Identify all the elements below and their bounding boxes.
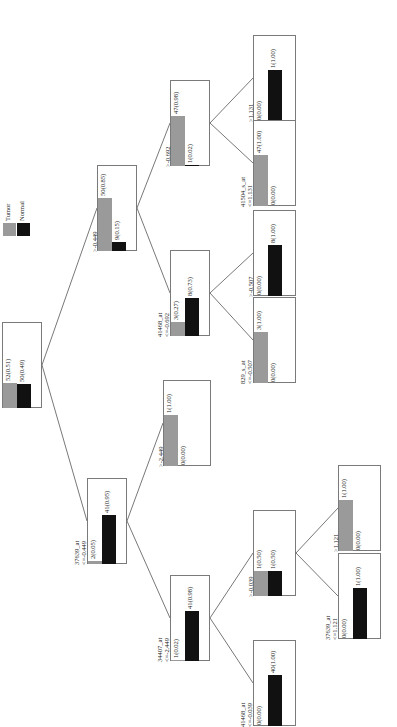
tree-node: 37639_at <=1.121 0(0.00) 1(1.00)	[338, 553, 381, 639]
split-variable: 37639_at	[73, 541, 80, 565]
tumor-count: 0(0.00)	[255, 101, 262, 120]
normal-count: 0(0.00)	[269, 363, 276, 382]
normal-count: 0(0.00)	[354, 531, 361, 550]
tumor-bar	[254, 571, 268, 596]
legend-label-normal: Normal	[18, 201, 25, 221]
split-condition: <=1.121	[331, 618, 338, 640]
tumor-bar	[88, 561, 102, 564]
split-variable: 829_s_at	[239, 361, 246, 384]
tumor-count: 47(0.98)	[172, 92, 179, 114]
split-condition: <=-0.692	[163, 313, 170, 337]
tumor-bar	[3, 383, 17, 408]
tumor-count: 52(0.51)	[4, 359, 11, 381]
split-variable: 34407_at	[156, 638, 163, 662]
split-condition: <=-0.507	[246, 360, 253, 384]
normal-bar	[268, 571, 282, 596]
tree-node: >-0.692 47(0.98) 1(0.02)	[170, 80, 210, 166]
normal-count: 8(0.73)	[186, 277, 193, 296]
tree-node: 41468_at <=-0.692 3(0.27) 8(0.73)	[170, 250, 210, 336]
tumor-count: 1(0.02)	[172, 639, 179, 658]
normal-count: 41(0.95)	[103, 491, 110, 513]
normal-bar	[268, 70, 282, 121]
split-condition: >-2.449	[157, 447, 164, 467]
split-variable: 41468_at	[239, 703, 246, 727]
tumor-bar	[339, 500, 353, 551]
normal-bar	[268, 245, 282, 296]
tumor-bar	[171, 660, 185, 661]
tumor-bar	[98, 198, 112, 251]
legend-swatch-tumor	[3, 223, 16, 236]
tumor-bar	[171, 322, 185, 336]
normal-count: 1(1.00)	[354, 567, 361, 586]
normal-count: 50(0.49)	[18, 360, 25, 382]
tree-node: >-2.449 1(1.00) 0(0.00)	[163, 380, 211, 466]
normal-bar	[102, 515, 116, 564]
tumor-count: 0(0.00)	[340, 619, 347, 638]
tumor-count: 1(0.50)	[255, 550, 262, 569]
normal-bar	[185, 298, 199, 336]
normal-bar	[268, 675, 282, 726]
normal-bar	[185, 165, 199, 166]
tree-node: >-0.507 0(0.00) 8(1.00)	[253, 210, 296, 296]
normal-count: 1(0.02)	[186, 144, 193, 163]
split-variable: 37639_at	[324, 616, 331, 640]
normal-count: 9(0.15)	[113, 221, 120, 240]
tumor-count: 3(1.00)	[255, 311, 262, 330]
normal-count: 41(0.98)	[186, 587, 193, 609]
tree-node: 37639_at <=-0.449 2(0.05) 41(0.95)	[87, 478, 127, 564]
split-condition: >-0.039	[247, 577, 254, 597]
normal-bar	[112, 242, 126, 251]
normal-count: 0(0.00)	[179, 446, 186, 465]
tumor-count: 3(0.27)	[172, 301, 179, 320]
tumor-count: 1(1.00)	[340, 479, 347, 498]
legend-swatch-normal	[17, 223, 30, 236]
tumor-bar	[254, 155, 268, 206]
normal-count: 1(1.00)	[269, 49, 276, 68]
split-condition: <=1.131	[246, 185, 253, 207]
split-condition: <=-0.449	[80, 541, 87, 565]
tumor-count: 0(0.00)	[255, 706, 262, 725]
tumor-bar	[254, 332, 268, 383]
normal-count: 1(0.50)	[269, 550, 276, 569]
split-condition: <=-0.039	[246, 703, 253, 727]
legend-label-tumor: Tumor	[4, 204, 11, 221]
tree-node: 41468_at <=-0.039 0(0.00) 40(1.00)	[253, 640, 296, 726]
normal-count: 0(0.00)	[269, 186, 276, 205]
normal-count: 40(1.00)	[269, 651, 276, 673]
tree-node: 41504_s_at <=1.131 47(1.00) 0(0.00)	[253, 120, 296, 206]
tree-node: 829_s_at <=-0.507 3(1.00) 0(0.00)	[253, 297, 296, 383]
normal-bar	[185, 611, 199, 661]
normal-bar	[17, 384, 31, 408]
tree-node: >1.131 0(0.00) 1(1.00)	[253, 35, 296, 121]
tree-node: >-0.449 50(0.85) 9(0.15)	[97, 165, 137, 251]
split-condition: >-0.507	[247, 277, 254, 297]
split-condition: >1.121	[332, 534, 339, 552]
tumor-count: 0(0.00)	[255, 276, 262, 295]
split-condition: >-0.449	[91, 232, 98, 252]
split-variable: 41468_at	[156, 313, 163, 337]
split-condition: <=-2.449	[163, 638, 170, 662]
split-condition: >-0.692	[164, 147, 171, 167]
normal-bar	[353, 588, 367, 639]
tree-node-root: 52(0.51) 50(0.49)	[2, 322, 42, 408]
tumor-count: 47(1.00)	[255, 131, 262, 153]
tumor-bar	[164, 415, 178, 466]
normal-count: 8(1.00)	[269, 224, 276, 243]
tree-node: >1.121 1(1.00) 0(0.00)	[338, 465, 381, 551]
tumor-bar	[171, 116, 185, 166]
tumor-count: 50(0.85)	[99, 174, 106, 196]
tumor-count: 1(1.00)	[165, 394, 172, 413]
tree-node: >-0.039 1(0.50) 1(0.50)	[253, 510, 296, 596]
split-variable: 41504_s_at	[239, 177, 246, 207]
tree-node: 34407_at <=-2.449 1(0.02) 41(0.98)	[170, 575, 210, 661]
tumor-count: 2(0.05)	[89, 540, 96, 559]
